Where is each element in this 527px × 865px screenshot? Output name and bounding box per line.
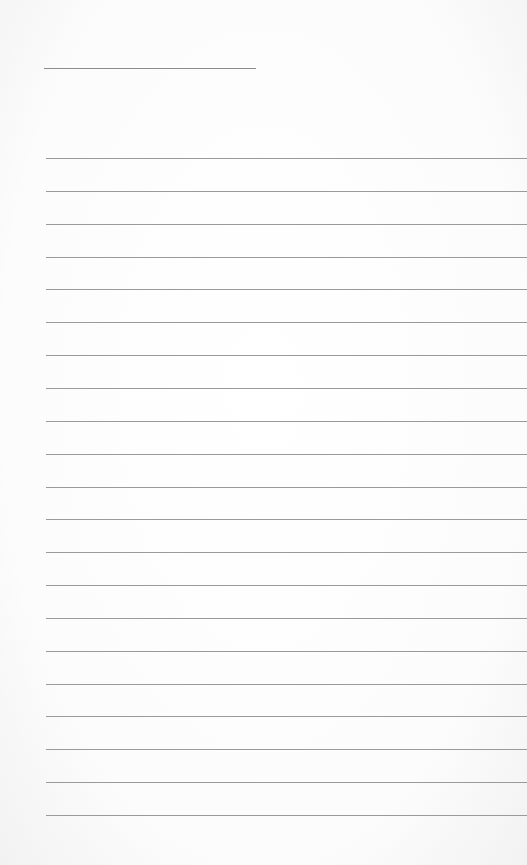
- ruled-line: [46, 815, 527, 816]
- ruled-line: [46, 749, 527, 750]
- ruled-line: [46, 355, 527, 356]
- ruled-line: [46, 388, 527, 389]
- ruled-line: [46, 487, 527, 488]
- ruled-line: [46, 618, 527, 619]
- ruled-line: [46, 322, 527, 323]
- ruled-line: [46, 224, 527, 225]
- lined-paper-sheet: [0, 0, 527, 865]
- ruled-line: [46, 651, 527, 652]
- ruled-line: [46, 289, 527, 290]
- ruled-line: [46, 519, 527, 520]
- ruled-line: [46, 454, 527, 455]
- ruled-line: [46, 421, 527, 422]
- ruled-line: [46, 782, 527, 783]
- ruled-line: [46, 191, 527, 192]
- ruled-line: [46, 257, 527, 258]
- ruled-line: [46, 716, 527, 717]
- header-line: [44, 68, 256, 69]
- ruled-line: [46, 552, 527, 553]
- ruled-line: [46, 684, 527, 685]
- ruled-line: [46, 585, 527, 586]
- ruled-line: [46, 158, 527, 159]
